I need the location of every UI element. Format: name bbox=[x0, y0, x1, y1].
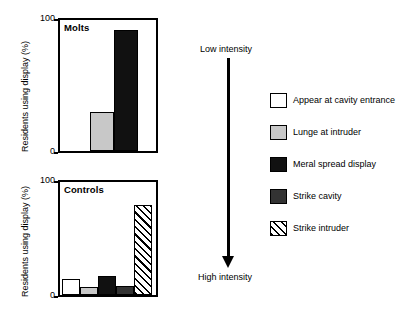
bar bbox=[98, 276, 116, 295]
legend-item: Strike intruder bbox=[270, 212, 395, 244]
legend-label: Appear at cavity entrance bbox=[293, 95, 395, 105]
legend-swatch-black bbox=[270, 157, 287, 172]
high-intensity-label: High intensity bbox=[198, 272, 252, 282]
bar-group-molts bbox=[60, 20, 156, 151]
down-arrow-icon-shaft bbox=[227, 58, 230, 258]
legend-swatch-hatch bbox=[270, 221, 287, 236]
legend: Appear at cavity entranceLunge at intrud… bbox=[270, 84, 395, 244]
legend-label: Lunge at intruder bbox=[293, 127, 361, 137]
y-axis-title-controls: Residents using display (%) bbox=[20, 186, 30, 297]
bar-group-controls bbox=[60, 182, 156, 295]
bar bbox=[134, 205, 152, 295]
legend-label: Meral spread display bbox=[293, 159, 376, 169]
legend-label: Strike cavity bbox=[293, 191, 342, 201]
down-arrow-icon-head bbox=[222, 256, 234, 268]
bar bbox=[62, 279, 80, 295]
y-tick-label-controls-100: 100 bbox=[29, 175, 55, 185]
bar bbox=[114, 30, 138, 151]
legend-swatch-white bbox=[270, 93, 287, 108]
bar bbox=[80, 287, 98, 295]
y-axis-title-molts: Residents using display (%) bbox=[20, 41, 30, 152]
y-tick-label-controls-0: 0 bbox=[29, 290, 55, 300]
y-tick-label-molts-0: 0 bbox=[29, 146, 55, 156]
y-tick-label-molts-100: 100 bbox=[29, 13, 55, 23]
legend-item: Strike cavity bbox=[270, 180, 395, 212]
legend-swatch-gray bbox=[270, 125, 287, 140]
legend-item: Meral spread display bbox=[270, 148, 395, 180]
low-intensity-label: Low intensity bbox=[200, 44, 252, 54]
legend-item: Appear at cavity entrance bbox=[270, 84, 395, 116]
legend-label: Strike intruder bbox=[293, 223, 349, 233]
bar bbox=[90, 112, 114, 151]
bar bbox=[116, 286, 134, 295]
legend-swatch-dark bbox=[270, 189, 287, 204]
legend-item: Lunge at intruder bbox=[270, 116, 395, 148]
